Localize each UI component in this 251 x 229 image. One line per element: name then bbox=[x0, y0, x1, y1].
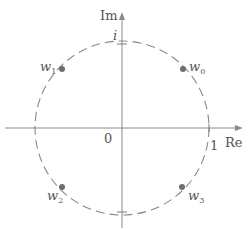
root-point-w0 bbox=[180, 66, 186, 72]
real-axis-label: Re bbox=[225, 135, 243, 150]
label-w2-name: w bbox=[47, 188, 58, 203]
imaginary-axis-arrow-icon bbox=[119, 12, 125, 20]
label-w1: w1 bbox=[40, 59, 56, 76]
real-axis-arrow-icon bbox=[235, 125, 243, 131]
label-w3-name: w bbox=[188, 188, 199, 203]
root-point-w1 bbox=[59, 66, 65, 72]
label-w0-sub: 0 bbox=[200, 67, 205, 76]
label-w3-sub: 3 bbox=[199, 196, 204, 205]
label-w0-name: w bbox=[189, 59, 200, 74]
label-w0: w0 bbox=[189, 59, 205, 76]
real-unit-label: 1 bbox=[210, 138, 218, 153]
root-point-w3 bbox=[179, 184, 185, 190]
origin-label: 0 bbox=[104, 131, 112, 146]
root-point-w2 bbox=[59, 184, 65, 190]
label-w3: w3 bbox=[188, 188, 204, 205]
complex-plane-diagram: Im Re 0 1 i w0 w1 w2 w3 bbox=[0, 0, 251, 229]
label-w1-sub: 1 bbox=[51, 67, 56, 76]
imaginary-unit-label: i bbox=[113, 28, 117, 43]
label-w1-name: w bbox=[40, 59, 51, 74]
imaginary-axis-label: Im bbox=[100, 8, 117, 23]
label-w2-sub: 2 bbox=[58, 196, 63, 205]
